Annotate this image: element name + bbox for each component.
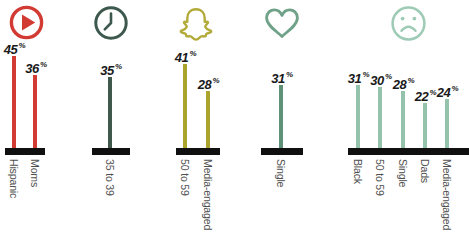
bar-chart-infographic: 45%Hispanic36%Moms35%35 to 3941%50 to 59… (0, 0, 469, 240)
heart-icon (262, 7, 302, 41)
category-label: Media-engaged (441, 159, 453, 230)
category-label: Single (275, 159, 287, 187)
category-label: Moms (29, 159, 41, 187)
axis-baseline (5, 148, 45, 155)
axis-baseline (348, 148, 469, 155)
bar (12, 56, 16, 148)
percent-sign: % (19, 41, 26, 50)
value-label: 28% (192, 75, 226, 92)
sad-face-icon (390, 5, 427, 42)
value-label: 36% (19, 59, 53, 76)
category-label: Black (352, 159, 364, 184)
value-number: 30 (370, 73, 384, 88)
percent-sign: % (213, 76, 220, 85)
value-number: 41 (175, 50, 189, 65)
percent-sign: % (452, 84, 459, 93)
clock-icon (94, 6, 128, 40)
bar (108, 77, 112, 148)
value-number: 35 (100, 63, 114, 78)
bar (423, 103, 427, 148)
category-label: 50 to 59 (179, 159, 191, 196)
play-icon (8, 4, 45, 41)
category-label: 35 to 39 (104, 159, 116, 196)
category-label: Media-engaged (202, 159, 214, 230)
bar (445, 99, 449, 148)
value-number: 28 (393, 77, 407, 92)
bar (33, 75, 37, 148)
bar (206, 91, 210, 148)
percent-sign: % (286, 70, 293, 79)
category-label: Hispanic (8, 159, 20, 198)
bar (183, 64, 187, 148)
axis-baseline (92, 148, 130, 155)
value-number: 36 (25, 61, 39, 76)
category-label: Single (397, 159, 409, 187)
category-label: 50 to 59 (374, 159, 386, 196)
bar (279, 85, 283, 148)
bar (401, 91, 405, 148)
value-label: 41% (169, 48, 203, 65)
percent-sign: % (40, 60, 47, 69)
value-number: 45 (4, 42, 18, 57)
snapchat-ghost-icon (177, 6, 215, 43)
value-label: 35% (94, 61, 128, 78)
value-number: 22 (415, 89, 429, 104)
bar (356, 85, 360, 148)
percent-sign: % (115, 62, 122, 71)
value-label: 45% (0, 40, 32, 57)
value-label: 24% (431, 83, 465, 100)
percent-sign: % (408, 76, 415, 85)
axis-baseline (261, 148, 303, 155)
axis-baseline (176, 148, 220, 155)
value-label: 31% (265, 69, 299, 86)
value-number: 28 (198, 77, 212, 92)
value-number: 24 (437, 85, 451, 100)
bar (378, 87, 382, 148)
value-number: 31 (348, 71, 362, 86)
value-number: 31 (271, 71, 285, 86)
percent-sign: % (190, 49, 197, 58)
category-label: Dads (419, 159, 431, 183)
